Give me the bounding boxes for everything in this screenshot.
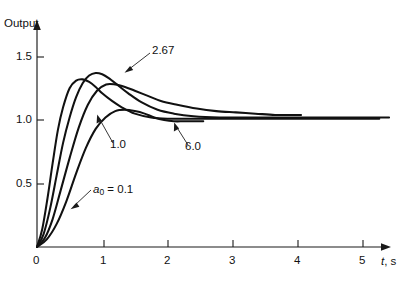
leader-arrowhead-a0-0.1 bbox=[71, 203, 80, 210]
y-axis-ticks bbox=[37, 57, 44, 184]
response-curves-group bbox=[37, 73, 389, 247]
x-tick-label-0: 0 bbox=[33, 255, 39, 267]
curve-a0-2.67 bbox=[37, 84, 301, 247]
leader-line-2.67 bbox=[128, 53, 150, 70]
x-tick-label-5: 5 bbox=[359, 255, 365, 267]
figure-step-response-chart: Output t, s 1.5 1.0 0.5 0 1 2 3 4 5 2.67… bbox=[0, 0, 410, 282]
annotation-label-a0-0.1: a0 = 0.1 bbox=[93, 184, 133, 196]
x-axis-arrowhead bbox=[381, 243, 391, 251]
annotation-label-2.67: 2.67 bbox=[152, 45, 174, 57]
chart-plot-area bbox=[0, 0, 410, 282]
x-axis-title-unit: , s bbox=[384, 255, 396, 267]
axes-group bbox=[33, 20, 391, 251]
x-axis-title: t, s bbox=[381, 256, 396, 268]
y-tick-label-1.0: 1.0 bbox=[16, 114, 32, 126]
x-tick-label-1: 1 bbox=[100, 255, 106, 267]
annotation-label-1.0: 1.0 bbox=[110, 139, 126, 151]
annotation-label-6.0: 6.0 bbox=[185, 141, 201, 153]
x-tick-label-4: 4 bbox=[294, 255, 300, 267]
annotation-a0-value: = 0.1 bbox=[104, 183, 133, 195]
x-axis-ticks bbox=[104, 240, 363, 247]
annotation-a0-subscript: 0 bbox=[99, 187, 104, 197]
y-tick-label-1.5: 1.5 bbox=[16, 51, 32, 63]
y-tick-label-0.5: 0.5 bbox=[16, 178, 32, 190]
x-tick-label-3: 3 bbox=[229, 255, 235, 267]
y-axis-title: Output bbox=[4, 18, 39, 30]
x-tick-label-2: 2 bbox=[164, 255, 170, 267]
